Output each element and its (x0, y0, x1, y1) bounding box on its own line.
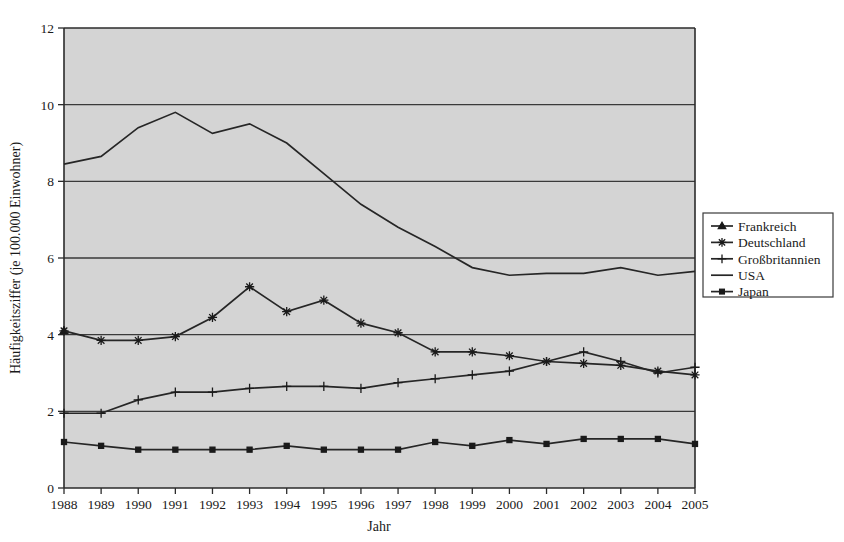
x-tick-label: 1994 (273, 497, 300, 512)
legend-label-deutschland[interactable]: Deutschland (738, 235, 806, 250)
square-marker (396, 447, 401, 452)
square-marker (99, 443, 104, 448)
x-axis-title: Jahr (367, 519, 391, 534)
square-marker (62, 440, 67, 445)
x-tick-label: 1995 (310, 497, 337, 512)
y-axis-title: Häufigkeitsziffer (je 100.000 Einwohner) (8, 142, 24, 375)
square-marker (470, 443, 475, 448)
x-tick-label: 2005 (682, 497, 709, 512)
star-marker (245, 282, 254, 291)
y-tick-label: 10 (41, 98, 55, 113)
square-marker (655, 436, 660, 441)
x-tick-label: 2002 (570, 497, 597, 512)
star-marker (356, 319, 365, 328)
square-marker (720, 289, 725, 294)
y-tick-label: 4 (47, 328, 54, 343)
star-marker (393, 328, 402, 337)
y-tick-label: 2 (47, 404, 54, 419)
star-marker (718, 238, 727, 247)
y-tick-label: 0 (47, 481, 54, 496)
legend-label-japan[interactable]: Japan (738, 284, 769, 299)
line-chart-svg: 024681012 198819891990199119921993199419… (0, 0, 844, 542)
x-tick-label: 2004 (644, 497, 671, 512)
square-marker (358, 447, 363, 452)
star-marker (59, 326, 68, 335)
y-tick-label: 8 (47, 174, 54, 189)
x-tick-label: 1990 (125, 497, 152, 512)
x-tick-label: 2001 (533, 497, 560, 512)
square-marker (581, 436, 586, 441)
star-marker (208, 313, 217, 322)
square-marker (136, 447, 141, 452)
chart-container: 024681012 198819891990199119921993199419… (0, 0, 844, 542)
square-marker (544, 441, 549, 446)
x-tick-label: 2000 (496, 497, 523, 512)
square-marker (247, 447, 252, 452)
x-tick-label: 1996 (347, 497, 374, 512)
square-marker (210, 447, 215, 452)
y-tick-label: 6 (47, 251, 54, 266)
square-marker (507, 438, 512, 443)
x-tick-label: 1991 (162, 497, 189, 512)
x-tick-label: 2003 (607, 497, 634, 512)
square-marker (693, 441, 698, 446)
x-tick-label: 1998 (422, 497, 449, 512)
legend-label-usa[interactable]: USA (738, 268, 765, 283)
x-tick-label: 1999 (459, 497, 486, 512)
square-marker (433, 440, 438, 445)
star-marker (468, 347, 477, 356)
star-marker (282, 307, 291, 316)
x-tick-label: 1989 (88, 497, 115, 512)
square-marker (173, 447, 178, 452)
y-axis-ticks: 024681012 (41, 21, 65, 496)
square-marker (618, 436, 623, 441)
star-marker (579, 359, 588, 368)
legend-label-frankreich[interactable]: Frankreich (738, 219, 797, 234)
star-marker (171, 332, 180, 341)
star-marker (319, 296, 328, 305)
x-tick-label: 1997 (385, 497, 412, 512)
star-marker (431, 347, 440, 356)
y-tick-label: 12 (41, 21, 55, 36)
square-marker (321, 447, 326, 452)
star-marker (134, 336, 143, 345)
legend-label-gro-britannien[interactable]: Großbritannien (738, 252, 821, 267)
star-marker (505, 351, 514, 360)
square-marker (284, 443, 289, 448)
chart-legend[interactable]: FrankreichDeutschlandGroßbritannienUSAJa… (703, 213, 833, 299)
x-tick-label: 1992 (199, 497, 226, 512)
x-axis-ticks: 1988198919901991199219931994199519961997… (51, 488, 709, 512)
star-marker (97, 336, 106, 345)
x-tick-label: 1988 (51, 497, 78, 512)
x-tick-label: 1993 (236, 497, 263, 512)
